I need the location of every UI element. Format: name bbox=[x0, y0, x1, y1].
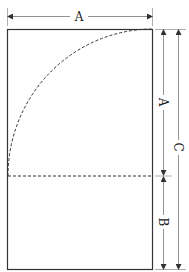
diagram-canvas: A A B C bbox=[0, 0, 189, 272]
outer-rectangle bbox=[8, 30, 153, 270]
label-top-a: A bbox=[74, 10, 84, 24]
label-right-b: B bbox=[156, 218, 170, 227]
quarter-arc bbox=[8, 29, 152, 176]
label-right-c: C bbox=[171, 142, 185, 151]
label-right-a: A bbox=[156, 97, 170, 107]
